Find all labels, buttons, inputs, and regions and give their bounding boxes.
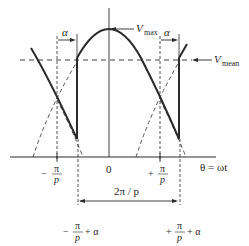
pos-pi-p-num: π	[160, 163, 165, 174]
dashed-phase-left	[33, 60, 78, 157]
dashed-phase-right-tail	[160, 100, 186, 157]
v-max-symbol: V	[136, 22, 144, 34]
v-mean-symbol: V	[214, 53, 222, 65]
origin-label: 0	[106, 163, 112, 175]
period-label: 2π / p	[114, 185, 140, 197]
alpha-right-arrowhead	[172, 38, 178, 42]
neg-pi-p-den: p	[53, 174, 59, 185]
neg-pi-p-num: π	[54, 163, 59, 174]
pos-pi-p-sign: +	[148, 168, 154, 179]
dashed-phase-left-tail	[57, 100, 83, 157]
alpha-left-label: α	[62, 26, 68, 38]
pos-pi-p-den: p	[159, 174, 165, 185]
waveform-main-arch	[77, 29, 179, 139]
dashed-phase-right	[136, 60, 180, 157]
pos-pi-p-alpha-num: π	[177, 220, 182, 231]
neg-pi-p-sign: −	[41, 168, 47, 179]
v-mean-subscript: mean	[222, 59, 239, 68]
period-arrowhead-left	[79, 199, 85, 203]
rectifier-waveform-diagram: α α V max V mean θ = ωt 0 − π p + π p 2π…	[0, 0, 249, 246]
v-mean-arrowhead	[192, 58, 198, 62]
neg-pi-p-alpha-num: π	[75, 220, 80, 231]
neg-pi-p-alpha-suffix: + α	[85, 226, 99, 237]
v-max-subscript: max	[144, 28, 158, 37]
pos-pi-p-alpha-sign: +	[166, 226, 172, 237]
pos-pi-p-alpha-suffix: + α	[187, 226, 201, 237]
axis-label: θ = ωt	[200, 161, 227, 173]
alpha-left-arrowhead	[70, 38, 76, 42]
waveform-right-rise	[179, 44, 187, 58]
period-arrowhead-right	[172, 199, 178, 203]
neg-pi-p-alpha-den: p	[74, 232, 80, 243]
neg-pi-p-alpha-sign: −	[63, 226, 69, 237]
alpha-right-label: α	[164, 26, 170, 38]
pos-pi-p-alpha-den: p	[176, 232, 182, 243]
waveform-left-segment	[31, 48, 77, 139]
